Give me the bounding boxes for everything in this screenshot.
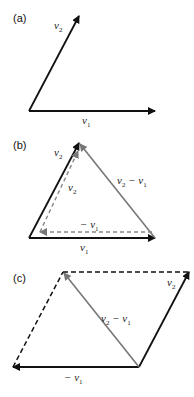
panel-b: (b) v2 v2 − v1 v2 − v1 v1 — [13, 139, 155, 256]
label-neg-v1: − v1 — [80, 218, 99, 233]
panel-label-a: (a) — [13, 12, 26, 24]
panel-label-b: (b) — [13, 139, 26, 151]
label-v1: v1 — [80, 241, 89, 256]
label-v2: v2 — [54, 146, 63, 161]
label-v1: v1 — [82, 114, 91, 129]
label-v2-inner: v2 — [68, 181, 77, 196]
vector-diagram: (a) v2 v1 (b) v2 v2 − v1 v2 − v1 v1 (c) … — [0, 0, 194, 397]
panel-a: (a) v2 v1 — [13, 12, 155, 129]
dashed-left-edge — [13, 272, 63, 367]
label-neg-v1: − v1 — [64, 371, 83, 386]
panel-label-c: (c) — [13, 272, 26, 284]
label-v2: v2 — [167, 276, 176, 291]
vector-v2-arrow — [139, 272, 189, 367]
label-v2-minus-v1: v2 − v1 — [101, 312, 131, 327]
panel-c: (c) v2 v2 − v1 − v1 — [13, 272, 189, 386]
label-v2: v2 — [54, 19, 63, 34]
label-v2-minus-v1: v2 − v1 — [117, 174, 147, 189]
